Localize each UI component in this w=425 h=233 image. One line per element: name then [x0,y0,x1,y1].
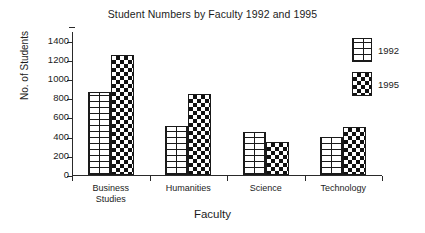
bar-1995-technology [343,127,366,175]
y-tick-label: 800 [29,92,69,103]
legend-item-1992: 1992 [352,38,422,64]
y-tick-label: 400 [29,131,69,142]
bar-1992-humanities [165,126,188,175]
chart-title: Student Numbers by Faculty 1992 and 1995 [0,8,425,20]
chart-legend: 1992 1995 [352,38,422,106]
bar-1995-science [266,142,289,175]
brick-swatch-icon [352,38,372,62]
x-tick-mark [305,176,306,181]
x-tick-mark [72,176,73,181]
y-tick-label: 1400 [29,35,69,46]
x-category-label: Business Studies [72,183,150,205]
y-axis-line [72,32,73,176]
x-tick-mark [382,176,383,181]
y-axis-top-cap [69,27,75,28]
bar-chart: Student Numbers by Faculty 1992 and 1995… [0,0,425,233]
x-axis-title: Faculty [0,208,425,220]
y-axis-title: No. of Students [19,6,30,126]
y-tick-label: 1200 [29,54,69,65]
checkerboard-swatch-icon [352,72,372,96]
x-tick-mark [227,176,228,181]
x-tick-mark [150,176,151,181]
legend-label: 1992 [378,45,399,56]
x-category-label: Science [227,183,305,194]
x-category-label: Technology [305,183,383,194]
y-tick-label: 200 [29,150,69,161]
bar-1992-business-studies [88,92,111,175]
bar-1995-business-studies [111,55,134,175]
y-tick-label: 600 [29,111,69,122]
bar-1992-technology [320,137,343,175]
x-category-label: Humanities [150,183,228,194]
legend-item-1995: 1995 [352,72,422,98]
bar-1992-science [243,132,266,175]
legend-label: 1995 [378,79,399,90]
plot-area: 0200400600800100012001400 [72,32,382,176]
y-tick-label: 0 [29,169,69,180]
y-tick-label: 1000 [29,73,69,84]
bar-1995-humanities [188,94,211,175]
